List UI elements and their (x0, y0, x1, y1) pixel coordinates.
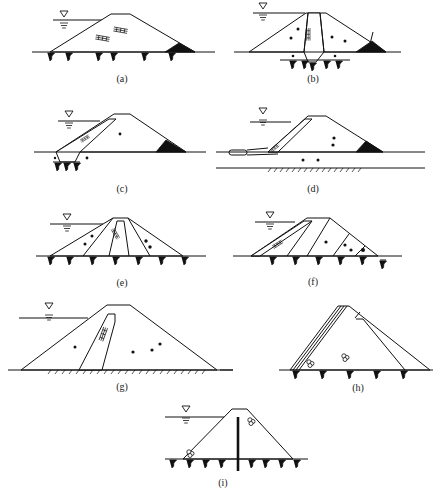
panel-label-b: (b) (307, 73, 319, 85)
dam-cross-sections-figure: (a) (b) (c) (0, 0, 439, 503)
panel-a: (a) (32, 11, 215, 85)
panel-b: (b) (234, 3, 401, 85)
panel-label-f: (f) (308, 276, 318, 288)
panel-e: (e) (36, 214, 206, 289)
panel-label-i: (i) (218, 477, 227, 489)
panel-i: (i) (165, 406, 308, 489)
water-level-icon (182, 406, 190, 423)
water-level-icon (63, 214, 71, 231)
panel-label-d: (d) (307, 183, 319, 195)
panel-g: (g) (8, 303, 233, 393)
water-level-icon (266, 212, 274, 229)
water-level-icon (259, 3, 267, 20)
panel-label-e: (e) (116, 277, 127, 289)
panel-d: (d) (216, 108, 425, 195)
panel-label-h: (h) (352, 382, 364, 394)
panel-label-g: (g) (116, 381, 128, 393)
panel-label-c: (c) (116, 183, 127, 195)
panel-h: (h) (220, 306, 433, 394)
water-level-icon (45, 303, 53, 320)
panel-c: (c) (34, 111, 206, 195)
water-level-icon (65, 111, 73, 128)
panel-label-a: (a) (116, 73, 127, 85)
rock-hatch (268, 168, 361, 172)
rock-hatch (48, 370, 205, 374)
panel-f: (f) (233, 212, 402, 288)
